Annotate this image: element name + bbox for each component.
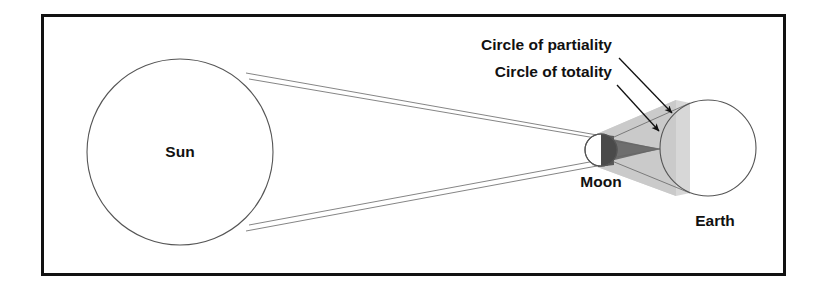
earth-label: Earth	[695, 212, 735, 229]
eclipse-diagram-canvas: Sun Earth Moon Circle of partiality	[0, 0, 826, 291]
circle-of-totality-label: Circle of totality	[495, 63, 613, 80]
circle-of-partiality-label: Circle of partiality	[481, 36, 612, 53]
sun-label: Sun	[165, 143, 194, 160]
moon-label: Moon	[580, 173, 621, 190]
eclipse-diagram-figure: Sun Earth Moon Circle of partiality	[0, 0, 826, 291]
sun-body: Sun	[87, 59, 273, 245]
